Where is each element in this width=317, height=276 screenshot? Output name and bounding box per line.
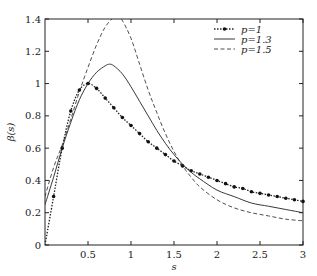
data-point-marker: [95, 87, 99, 91]
data-point-marker: [232, 185, 236, 189]
y-tick-label: 0.6: [25, 143, 41, 154]
data-point-marker: [267, 193, 271, 197]
y-tick-label: 0.2: [25, 207, 41, 218]
data-point-marker: [155, 146, 159, 150]
x-tick-label: 2: [214, 249, 220, 260]
y-axis-label: β(s): [5, 123, 16, 143]
data-point-marker: [258, 192, 262, 196]
y-tick-label: 1: [35, 78, 41, 89]
data-point-marker: [164, 153, 168, 157]
data-point-marker: [198, 172, 202, 176]
data-point-marker: [293, 198, 297, 202]
data-point-marker: [284, 196, 288, 200]
data-point-marker: [52, 195, 56, 199]
data-point-marker: [172, 159, 176, 163]
x-tick-label: 2.5: [252, 249, 268, 260]
data-point-marker: [224, 182, 228, 186]
data-point-marker: [250, 190, 254, 194]
data-point-marker: [241, 187, 245, 191]
x-axis-label: s: [171, 261, 176, 272]
y-tick-label: 0.8: [25, 110, 41, 121]
x-tick-label: 3: [300, 249, 306, 260]
data-point-marker: [215, 179, 219, 183]
line-chart: 0.511.522.53 00.20.40.60.811.21.4 p=1p=1…: [0, 0, 317, 276]
x-tick-label: 0.5: [80, 249, 96, 260]
data-point-marker: [69, 109, 73, 113]
legend-label: p=1.5: [241, 44, 272, 55]
legend: p=1p=1.3p=1.5: [214, 24, 272, 55]
y-tick-label: 1.4: [25, 14, 41, 25]
data-point-marker: [129, 124, 133, 128]
x-axis-ticks: 0.511.522.53: [80, 19, 306, 260]
x-tick-label: 1: [128, 249, 134, 260]
y-tick-label: 0.4: [25, 175, 41, 186]
data-point-marker: [103, 96, 107, 100]
data-point-marker: [146, 140, 150, 144]
series-line-p=1: [45, 84, 303, 245]
series-line-p=1.3: [45, 64, 303, 213]
data-point-marker: [275, 195, 279, 199]
y-tick-label: 0: [35, 240, 41, 251]
x-tick-label: 1.5: [166, 249, 182, 260]
data-point-marker: [138, 132, 142, 136]
data-point-marker: [112, 106, 116, 110]
data-point-marker: [301, 200, 305, 204]
y-tick-label: 1.2: [25, 46, 41, 57]
data-point-marker: [121, 116, 125, 120]
data-point-marker: [207, 175, 211, 179]
